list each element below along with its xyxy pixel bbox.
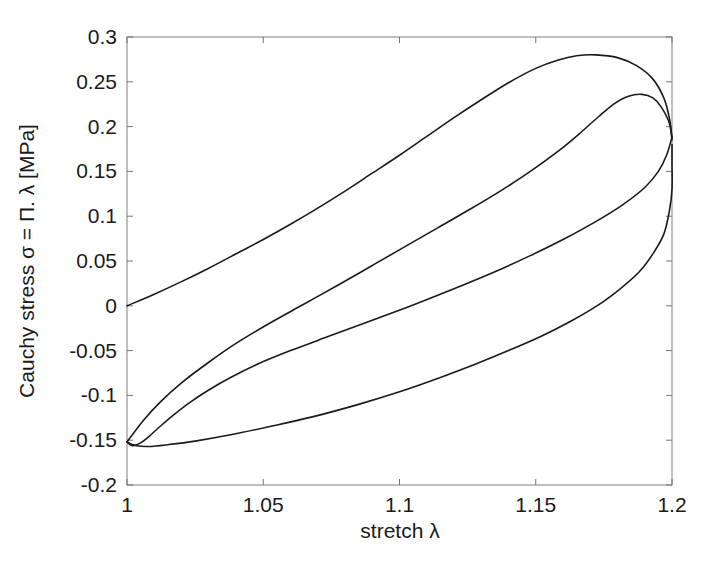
y-tick-label: 0.3 [88, 25, 117, 48]
y-tick-label: -0.05 [69, 339, 117, 362]
stress-stretch-hysteresis-chart: 11.051.11.151.2 -0.2-0.15-0.1-0.0500.050… [0, 0, 721, 562]
y-tick-label: -0.15 [69, 428, 117, 451]
plot-frame [127, 37, 672, 485]
y-tick-label: 0.25 [76, 70, 117, 93]
y-tick-label: 0.1 [88, 204, 117, 227]
x-axis-tick-labels: 11.051.11.151.2 [121, 493, 686, 516]
curve-unloading-branch [127, 137, 672, 445]
curve-first-loading-branch [127, 55, 672, 306]
x-tick-label: 1.15 [515, 493, 556, 516]
x-tick-label: 1.05 [243, 493, 284, 516]
x-axis-title: stretch λ [360, 519, 440, 542]
y-tick-label: 0.15 [76, 159, 117, 182]
curve-second-loading-branch [127, 145, 672, 447]
figure-canvas: 11.051.11.151.2 -0.2-0.15-0.1-0.0500.050… [0, 0, 721, 562]
x-tick-label: 1 [121, 493, 133, 516]
x-axis-ticks [127, 37, 672, 485]
x-tick-label: 1.1 [385, 493, 414, 516]
y-axis-ticks [127, 37, 672, 485]
y-tick-label: -0.2 [81, 473, 117, 496]
y-tick-label: -0.1 [81, 383, 117, 406]
x-tick-label: 1.2 [657, 493, 686, 516]
y-tick-label: 0 [105, 294, 117, 317]
y-tick-label: 0.2 [88, 115, 117, 138]
data-curves [127, 55, 672, 447]
y-axis-tick-labels: -0.2-0.15-0.1-0.0500.050.10.150.20.250.3 [69, 25, 117, 496]
y-tick-label: 0.05 [76, 249, 117, 272]
y-axis-title: Cauchy stress σ = Π. λ [MPa] [15, 124, 38, 398]
